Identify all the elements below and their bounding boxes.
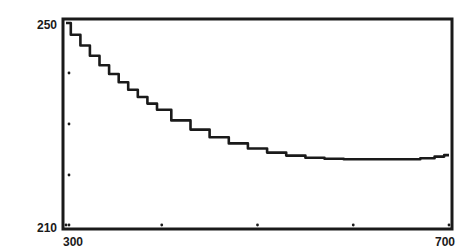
y-tick-dot	[68, 72, 71, 75]
y-tick-dot	[68, 123, 71, 126]
x-tick-dot	[256, 224, 259, 227]
x-tick-label-right: 700	[435, 235, 455, 249]
y-tick-label-top: 250	[37, 18, 57, 32]
y-tick-dot	[68, 174, 71, 177]
data-line	[66, 23, 449, 159]
x-tick-dot	[65, 224, 68, 227]
y-tick-label-bottom: 210	[37, 221, 57, 235]
axes-box	[63, 19, 452, 229]
x-tick-dot	[352, 224, 355, 227]
plot-frame	[63, 19, 452, 229]
line-chart: 250 210 300 700	[0, 0, 476, 250]
x-tick-label-left: 300	[63, 235, 83, 249]
x-tick-dot	[448, 224, 451, 227]
y-tick-dot	[68, 224, 71, 227]
x-tick-dot	[160, 224, 163, 227]
